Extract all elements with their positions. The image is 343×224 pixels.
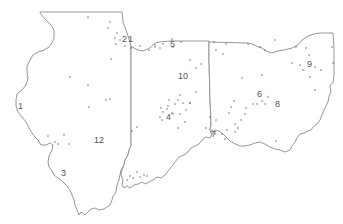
data-point	[131, 130, 132, 131]
data-point	[177, 99, 178, 100]
data-point	[228, 112, 229, 113]
cluster-label: 6	[257, 89, 262, 99]
data-point	[234, 131, 235, 132]
data-point	[139, 45, 140, 46]
data-point	[180, 41, 181, 42]
data-point	[126, 179, 127, 180]
cluster-label: 10	[178, 71, 188, 81]
data-point	[320, 69, 321, 70]
data-point	[261, 74, 262, 75]
data-point	[115, 43, 116, 44]
data-point	[168, 99, 169, 100]
data-point	[136, 126, 137, 127]
data-point	[233, 100, 234, 101]
data-point	[244, 113, 245, 114]
cluster-label: 5	[170, 39, 175, 49]
data-point	[291, 62, 292, 63]
data-point	[107, 27, 108, 28]
data-point	[116, 32, 117, 33]
data-point	[161, 119, 162, 120]
data-point	[200, 63, 201, 64]
data-point	[261, 100, 262, 101]
data-point	[159, 47, 160, 48]
data-point	[299, 64, 300, 65]
data-point	[68, 143, 69, 144]
cluster-label: 9	[307, 59, 312, 69]
data-point	[237, 127, 238, 128]
data-point	[87, 84, 88, 85]
data-point	[314, 66, 315, 67]
data-point	[179, 94, 180, 95]
data-point	[225, 43, 226, 44]
data-point	[136, 171, 137, 172]
data-point	[132, 177, 133, 178]
data-point	[189, 59, 190, 60]
data-point	[54, 141, 55, 142]
data-point	[213, 41, 214, 42]
data-point	[167, 105, 168, 106]
data-point	[87, 16, 88, 17]
data-point	[221, 133, 222, 134]
data-point	[47, 135, 48, 136]
data-point	[275, 140, 276, 141]
cluster-label: 2	[122, 34, 127, 44]
data-point	[305, 47, 306, 48]
data-point	[69, 76, 70, 77]
data-point	[295, 46, 296, 47]
data-point	[63, 134, 64, 135]
data-point	[185, 109, 186, 110]
data-point	[143, 174, 144, 175]
data-point	[162, 111, 163, 112]
data-point	[332, 62, 333, 63]
data-point	[308, 54, 309, 55]
data-point	[302, 69, 303, 70]
data-point	[139, 176, 140, 177]
data-point	[182, 102, 183, 103]
data-point	[110, 58, 111, 59]
data-point	[230, 106, 231, 107]
data-point	[274, 39, 275, 40]
data-point	[256, 103, 257, 104]
data-point	[205, 127, 206, 128]
data-point	[215, 49, 216, 50]
data-point	[160, 107, 161, 108]
data-point	[226, 129, 227, 130]
data-point	[109, 98, 110, 99]
data-point	[105, 99, 106, 100]
data-point	[154, 44, 155, 45]
data-point	[148, 49, 149, 50]
cluster-label: 7	[211, 129, 216, 139]
data-point	[189, 102, 190, 103]
data-point	[130, 47, 131, 48]
data-point	[267, 96, 268, 97]
data-point	[222, 53, 223, 54]
data-point	[209, 116, 210, 117]
data-point	[195, 91, 196, 92]
region-illinois	[16, 12, 131, 215]
data-point	[154, 46, 155, 47]
data-point	[247, 43, 248, 44]
data-point	[259, 46, 260, 47]
data-point	[245, 107, 246, 108]
data-point	[215, 119, 216, 120]
data-point	[241, 77, 242, 78]
data-point	[177, 127, 178, 128]
data-point	[234, 123, 235, 124]
data-point	[309, 76, 310, 77]
data-point	[174, 103, 175, 104]
region-ohio	[209, 33, 334, 152]
data-point	[129, 175, 130, 176]
data-point	[264, 49, 265, 50]
data-point	[195, 67, 196, 68]
data-point	[252, 103, 253, 104]
data-point	[119, 39, 120, 40]
data-point	[88, 106, 89, 107]
cluster-label: 4	[166, 112, 171, 122]
data-point	[162, 43, 163, 44]
data-point	[166, 108, 167, 109]
data-point	[264, 103, 265, 104]
cluster-label: 1	[18, 101, 23, 111]
data-point	[224, 138, 225, 139]
cluster-label: 3	[61, 168, 66, 178]
data-point	[146, 175, 147, 176]
